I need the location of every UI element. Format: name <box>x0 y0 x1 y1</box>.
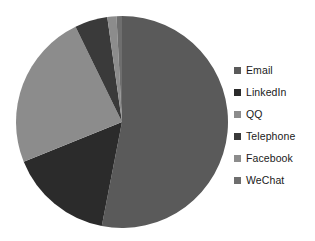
legend-swatch-icon <box>234 155 241 162</box>
pie-slice-group <box>16 16 228 228</box>
legend-label: WeChat <box>246 175 284 186</box>
legend-swatch-icon <box>234 89 241 96</box>
legend-label: Email <box>246 65 273 76</box>
legend-swatch-icon <box>234 177 241 184</box>
legend-swatch-icon <box>234 67 241 74</box>
legend-item-email: Email <box>234 60 315 80</box>
legend-label: Telephone <box>246 131 295 142</box>
legend-label: QQ <box>246 109 263 120</box>
legend-swatch-icon <box>234 111 241 118</box>
legend-item-facebook: Facebook <box>234 148 315 168</box>
legend-item-telephone: Telephone <box>234 126 315 146</box>
legend-swatch-icon <box>234 133 241 140</box>
legend-label: LinkedIn <box>246 87 287 98</box>
pie-plot-area <box>14 14 230 230</box>
legend-item-linkedin: LinkedIn <box>234 82 315 102</box>
pie-chart-figure: EmailLinkedInQQTelephoneFacebookWeChat <box>0 0 315 241</box>
pie-svg <box>14 14 230 230</box>
legend-item-wechat: WeChat <box>234 170 315 190</box>
chart-legend: EmailLinkedInQQTelephoneFacebookWeChat <box>234 60 315 192</box>
legend-label: Facebook <box>246 153 293 164</box>
legend-item-qq: QQ <box>234 104 315 124</box>
